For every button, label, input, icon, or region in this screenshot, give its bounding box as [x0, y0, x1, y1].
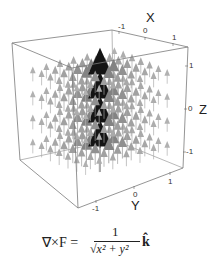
x-tick-0: 0 — [143, 26, 147, 35]
curl-formula: ∇×F = 1 √x² + y² k̂ — [38, 224, 188, 264]
z-tick-0: 0 — [188, 104, 192, 113]
formula-numerator: 1 — [112, 224, 119, 240]
x-axis-label: x — [146, 10, 155, 25]
arrow-field — [30, 47, 170, 175]
y-tick-neg1: -1 — [92, 204, 99, 213]
z-axis-label: z — [199, 102, 207, 117]
x-tick-1: 1 — [172, 33, 176, 42]
x-tick-neg1: -1 — [118, 22, 125, 31]
formula-lhs: ∇×F = — [42, 234, 78, 251]
formula-unit-vector: k̂ — [142, 234, 150, 250]
z-tick-1: 1 — [189, 61, 193, 70]
y-tick-1: 1 — [168, 177, 172, 186]
formula-denominator: √x² + y² — [90, 242, 129, 257]
y-axis-label: y — [131, 198, 140, 213]
z-tick-neg1: -1 — [186, 147, 193, 156]
